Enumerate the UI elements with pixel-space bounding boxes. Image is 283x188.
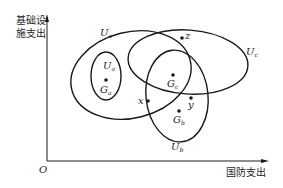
label-x: x xyxy=(138,95,144,106)
region-ub xyxy=(141,47,212,145)
label-gb: Gb xyxy=(173,114,185,128)
y-axis-label-line2: 施支出 xyxy=(16,28,46,39)
label-z: z xyxy=(185,30,190,41)
point-gc xyxy=(171,73,175,77)
label-ga: Ga xyxy=(100,84,112,98)
point-gb xyxy=(177,109,181,113)
label-uc: Uc xyxy=(246,46,258,60)
x-axis-label: 国防支出 xyxy=(226,167,266,178)
y-axis-label-line1: 基础设 xyxy=(16,15,46,26)
label-ua-prime: Ua′ xyxy=(100,24,110,41)
origin-label: O xyxy=(39,164,47,175)
x-axis-arrow-icon xyxy=(261,159,269,163)
label-gc: Gc xyxy=(167,78,178,92)
label-y: y xyxy=(188,99,194,110)
point-ga xyxy=(104,78,108,82)
label-ub: Ub xyxy=(171,141,183,155)
point-z xyxy=(180,36,184,40)
point-x xyxy=(146,99,150,103)
label-ua: Ua xyxy=(103,60,115,74)
